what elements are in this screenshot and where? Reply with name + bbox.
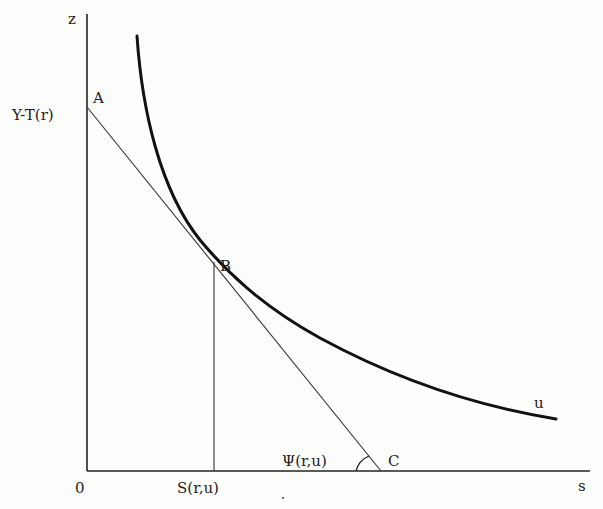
indifference-curve — [137, 36, 556, 419]
curve-label: u — [534, 394, 544, 412]
z-axis-label: z — [68, 10, 76, 28]
diagram: z s 0 A B C Y-T(r) S(r,u) Ψ(r,u) u — [0, 0, 603, 509]
point-a-label: A — [92, 89, 104, 107]
diagram-canvas: z s 0 A B C Y-T(r) S(r,u) Ψ(r,u) u — [0, 0, 603, 509]
origin-label: 0 — [75, 479, 85, 497]
point-b-label: B — [220, 257, 231, 275]
tangent-line — [87, 107, 381, 471]
angle-label: Ψ(r,u) — [282, 452, 327, 470]
s-axis-label: s — [578, 477, 586, 495]
intercept-label: Y-T(r) — [11, 106, 54, 124]
point-c-label: C — [388, 452, 399, 470]
angle-arc — [356, 456, 369, 471]
speck — [282, 497, 284, 499]
s-value-label: S(r,u) — [177, 479, 219, 497]
